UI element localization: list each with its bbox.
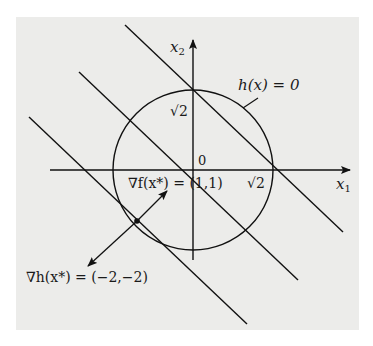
origin-label: 0 — [198, 153, 206, 168]
grad-h-label: ∇h(x*) = (−2,−2) — [26, 269, 148, 285]
grad-h-arrow — [88, 221, 137, 266]
constraint-label: h(x) = 0 — [238, 76, 300, 94]
grad-f-label: ∇f(x*) = (1,1) — [128, 175, 223, 191]
lagrange-diagram: x2 x1 0 √2 √2 h(x) = 0 ∇f(x*) = (1,1) ∇h… — [0, 0, 373, 346]
y-tick-sqrt2: √2 — [170, 103, 188, 119]
optimal-point — [134, 218, 140, 224]
grad-f-arrow — [137, 191, 167, 221]
x2-axis-label: x2 — [170, 38, 185, 57]
constraint-leader — [243, 98, 258, 108]
x-tick-sqrt2: √2 — [247, 175, 265, 191]
x1-axis-label: x1 — [336, 175, 351, 194]
